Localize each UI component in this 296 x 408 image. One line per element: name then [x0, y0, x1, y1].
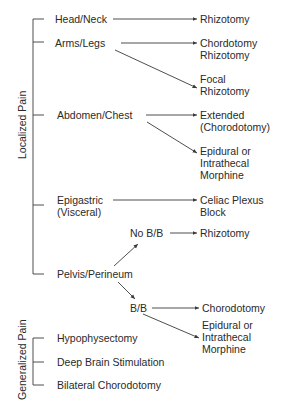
node-bilateral-chorodotomy: Bilateral Chorodotomy [57, 379, 161, 391]
outcome-morphine-1: Morphine [200, 169, 244, 181]
node-deep-brain-stimulation: Deep Brain Stimulation [57, 356, 164, 368]
outcome-rhizotomy-no-bb: Rhizotomy [200, 227, 250, 239]
outcome-epidural-2: Epidural or [202, 319, 253, 331]
outcome-morphine-2: Morphine [202, 343, 246, 355]
outcome-rhizotomy-head: Rhizotomy [200, 13, 250, 25]
node-epigastric: Epigastric [57, 194, 103, 206]
outcome-extended: Extended [200, 109, 244, 121]
node-pelvis-perineum: Pelvis/Perineum [57, 268, 133, 280]
node-visceral: (Visceral) [57, 206, 101, 218]
outcome-celiac-plexus: Celiac Plexus [200, 194, 264, 206]
outcome-epidural-1: Epidural or [200, 145, 251, 157]
node-no-bb: No B/B [130, 227, 163, 239]
group-label-generalized-pain: Generalized Pain [16, 319, 28, 400]
node-head-neck: Head/Neck [55, 13, 107, 25]
outcome-chordotomy-arms: Chordotomy [200, 37, 257, 49]
outcome-focal: Focal [200, 73, 226, 85]
outcome-block: Block [200, 206, 226, 218]
outcome-focal-rhizotomy: Rhizotomy [200, 85, 250, 97]
node-bb: B/B [130, 302, 147, 314]
outcome-chorodotomy-extended: (Chorodotomy) [200, 121, 270, 133]
node-arms-legs: Arms/Legs [55, 37, 105, 49]
outcome-rhizotomy-arms: Rhizotomy [200, 49, 250, 61]
node-abdomen-chest: Abdomen/Chest [57, 109, 132, 121]
outcome-intrathecal-1: Intrathecal [200, 157, 249, 169]
outcome-chorodotomy-bb: Chorodotomy [202, 302, 265, 314]
group-label-localized-pain: Localized Pain [16, 91, 28, 159]
outcome-intrathecal-2: Intrathecal [202, 331, 251, 343]
node-hypophysectomy: Hypophysectomy [57, 332, 138, 344]
